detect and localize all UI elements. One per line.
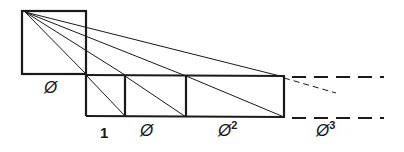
- label-phi-squared: Ø2: [218, 122, 237, 139]
- fan-lines: [25, 12, 284, 117]
- label-unit: 1: [100, 125, 108, 140]
- label-phi-cubed: Ø3: [316, 122, 335, 139]
- diagram-lines: [0, 0, 404, 152]
- label-phi: Ø: [140, 122, 153, 139]
- phi3-exponent: 3: [329, 119, 335, 131]
- label-big-square-phi: Ø: [44, 79, 57, 96]
- phi2-exponent: 2: [231, 119, 237, 131]
- fan-line-dashed: [284, 78, 336, 93]
- golden-ratio-diagram: Ø 1 Ø Ø2 Ø3: [0, 0, 404, 152]
- phi3-base: Ø: [316, 121, 329, 140]
- phi2-base: Ø: [218, 121, 231, 140]
